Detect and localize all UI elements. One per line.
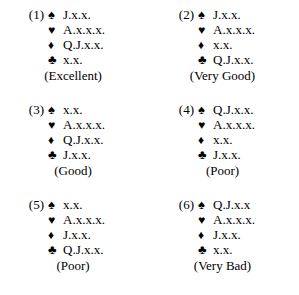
hand-grid: (1) ♠ J.x.x. ♥ A.x.x.x. ♦ Q.J.x.x. ♣ x.x… (0, 0, 299, 295)
hand-rating: (Very Good) (150, 68, 295, 83)
clubs-holding: J.x.x. (213, 147, 241, 162)
diamond-icon: ♦ (198, 228, 213, 243)
hearts-holding: A.x.x.x. (213, 212, 255, 227)
hand-number: (4) (150, 102, 198, 117)
hand-body: (3) ♠ x.x. ♥ A.x.x.x. ♦ Q.J.x.x. ♣ J.x.x… (0, 102, 150, 162)
hand-rating: (Poor) (0, 258, 146, 273)
suit-row-hearts: ♥ A.x.x.x. (48, 22, 105, 37)
hand-rating: (Very Bad) (150, 258, 295, 273)
spades-holding: x.x. (63, 197, 83, 212)
suit-row-spades: ♠ x.x. (48, 102, 105, 117)
suit-row-diamonds: ♦ Q.J.x.x. (48, 132, 105, 147)
hand-body: (4) ♠ Q.J.x.x. ♥ A.x.x.x. ♦ x.x. ♣ J.x.x… (150, 102, 299, 162)
hand-card-5: (5) ♠ x.x. ♥ A.x.x.x. ♦ J.x.x. ♣ Q.J.x.x… (0, 190, 150, 295)
suit-rows: ♠ J.x.x. ♥ A.x.x.x. ♦ x.x. ♣ Q.J.x.x. (198, 7, 255, 67)
suit-row-clubs: ♣ x.x. (48, 52, 105, 67)
suit-row-spades: ♠ x.x. (48, 197, 105, 212)
hand-card-3: (3) ♠ x.x. ♥ A.x.x.x. ♦ Q.J.x.x. ♣ J.x.x… (0, 95, 150, 190)
hand-body: (5) ♠ x.x. ♥ A.x.x.x. ♦ J.x.x. ♣ Q.J.x.x… (0, 197, 150, 257)
suit-rows: ♠ x.x. ♥ A.x.x.x. ♦ Q.J.x.x. ♣ J.x.x. (48, 102, 105, 162)
suit-row-spades: ♠ J.x.x. (198, 7, 255, 22)
hand-number: (3) (0, 102, 48, 117)
heart-icon: ♥ (48, 213, 63, 228)
suit-rows: ♠ Q.J.x.x. ♥ A.x.x.x. ♦ x.x. ♣ J.x.x. (198, 102, 255, 162)
hand-body: (6) ♠ Q.J.x.x ♥ A.x.x.x. ♦ J.x.x. ♣ x.x. (150, 197, 299, 257)
hearts-holding: A.x.x.x. (213, 117, 255, 132)
suit-row-hearts: ♥ A.x.x.x. (198, 117, 255, 132)
suit-row-clubs: ♣ Q.J.x.x. (198, 52, 255, 67)
suit-row-hearts: ♥ A.x.x.x. (198, 212, 255, 227)
hand-number: (6) (150, 197, 198, 212)
clubs-holding: Q.J.x.x. (63, 242, 103, 257)
hearts-holding: A.x.x.x. (213, 22, 255, 37)
hand-rating: (Poor) (150, 163, 295, 178)
suit-row-diamonds: ♦ x.x. (198, 37, 255, 52)
clubs-holding: x.x. (213, 242, 233, 257)
hand-number: (1) (0, 7, 48, 22)
spades-holding: x.x. (63, 102, 83, 117)
suit-rows: ♠ Q.J.x.x ♥ A.x.x.x. ♦ J.x.x. ♣ x.x. (198, 197, 255, 257)
suit-row-diamonds: ♦ Q.J.x.x. (48, 37, 105, 52)
spade-icon: ♠ (48, 102, 63, 117)
spade-icon: ♠ (48, 197, 63, 212)
diamond-icon: ♦ (198, 38, 213, 53)
spades-holding: Q.J.x.x (213, 197, 250, 212)
diamonds-holding: J.x.x. (213, 227, 241, 242)
diamonds-holding: Q.J.x.x. (63, 37, 103, 52)
spade-icon: ♠ (198, 102, 213, 117)
clubs-holding: J.x.x. (63, 147, 91, 162)
clubs-holding: x.x. (63, 52, 83, 67)
suit-row-hearts: ♥ A.x.x.x. (48, 212, 105, 227)
hearts-holding: A.x.x.x. (63, 212, 105, 227)
club-icon: ♣ (198, 147, 213, 162)
hand-number: (5) (0, 197, 48, 212)
diamonds-holding: Q.J.x.x. (63, 132, 103, 147)
club-icon: ♣ (48, 52, 63, 67)
spades-holding: J.x.x. (63, 7, 91, 22)
suit-row-diamonds: ♦ x.x. (198, 132, 255, 147)
hearts-holding: A.x.x.x. (63, 22, 105, 37)
spade-icon: ♠ (198, 197, 213, 212)
diamonds-holding: x.x. (213, 37, 233, 52)
heart-icon: ♥ (198, 23, 213, 38)
heart-icon: ♥ (198, 213, 213, 228)
spade-icon: ♠ (198, 7, 213, 22)
hand-rating: (Excellent) (0, 68, 146, 83)
diamond-icon: ♦ (48, 133, 63, 148)
club-icon: ♣ (48, 147, 63, 162)
hearts-holding: A.x.x.x. (63, 117, 105, 132)
suit-rows: ♠ x.x. ♥ A.x.x.x. ♦ J.x.x. ♣ Q.J.x.x. (48, 197, 105, 257)
suit-row-clubs: ♣ J.x.x. (198, 147, 255, 162)
spades-holding: J.x.x. (213, 7, 241, 22)
hand-number: (2) (150, 7, 198, 22)
hand-card-2: (2) ♠ J.x.x. ♥ A.x.x.x. ♦ x.x. ♣ Q.J.x.x… (150, 0, 299, 95)
suit-row-clubs: ♣ x.x. (198, 242, 255, 257)
heart-icon: ♥ (48, 118, 63, 133)
diamond-icon: ♦ (48, 38, 63, 53)
clubs-holding: Q.J.x.x. (213, 52, 253, 67)
diamonds-holding: x.x. (213, 132, 233, 147)
suit-row-clubs: ♣ Q.J.x.x. (48, 242, 105, 257)
hand-card-4: (4) ♠ Q.J.x.x. ♥ A.x.x.x. ♦ x.x. ♣ J.x.x… (150, 95, 299, 190)
diamonds-holding: J.x.x. (63, 227, 91, 242)
suit-row-diamonds: ♦ J.x.x. (48, 227, 105, 242)
suit-row-clubs: ♣ J.x.x. (48, 147, 105, 162)
hand-rating: (Good) (0, 163, 146, 178)
diamond-icon: ♦ (48, 228, 63, 243)
club-icon: ♣ (198, 242, 213, 257)
spade-icon: ♠ (48, 7, 63, 22)
hand-body: (1) ♠ J.x.x. ♥ A.x.x.x. ♦ Q.J.x.x. ♣ x.x… (0, 7, 150, 67)
suit-row-diamonds: ♦ J.x.x. (198, 227, 255, 242)
club-icon: ♣ (198, 52, 213, 67)
hand-card-6: (6) ♠ Q.J.x.x ♥ A.x.x.x. ♦ J.x.x. ♣ x.x. (150, 190, 299, 295)
suit-row-spades: ♠ J.x.x. (48, 7, 105, 22)
suit-row-hearts: ♥ A.x.x.x. (198, 22, 255, 37)
suit-row-hearts: ♥ A.x.x.x. (48, 117, 105, 132)
suit-row-spades: ♠ Q.J.x.x (198, 197, 255, 212)
heart-icon: ♥ (198, 118, 213, 133)
club-icon: ♣ (48, 242, 63, 257)
hand-body: (2) ♠ J.x.x. ♥ A.x.x.x. ♦ x.x. ♣ Q.J.x.x… (150, 7, 299, 67)
diamond-icon: ♦ (198, 133, 213, 148)
hand-card-1: (1) ♠ J.x.x. ♥ A.x.x.x. ♦ Q.J.x.x. ♣ x.x… (0, 0, 150, 95)
suit-rows: ♠ J.x.x. ♥ A.x.x.x. ♦ Q.J.x.x. ♣ x.x. (48, 7, 105, 67)
